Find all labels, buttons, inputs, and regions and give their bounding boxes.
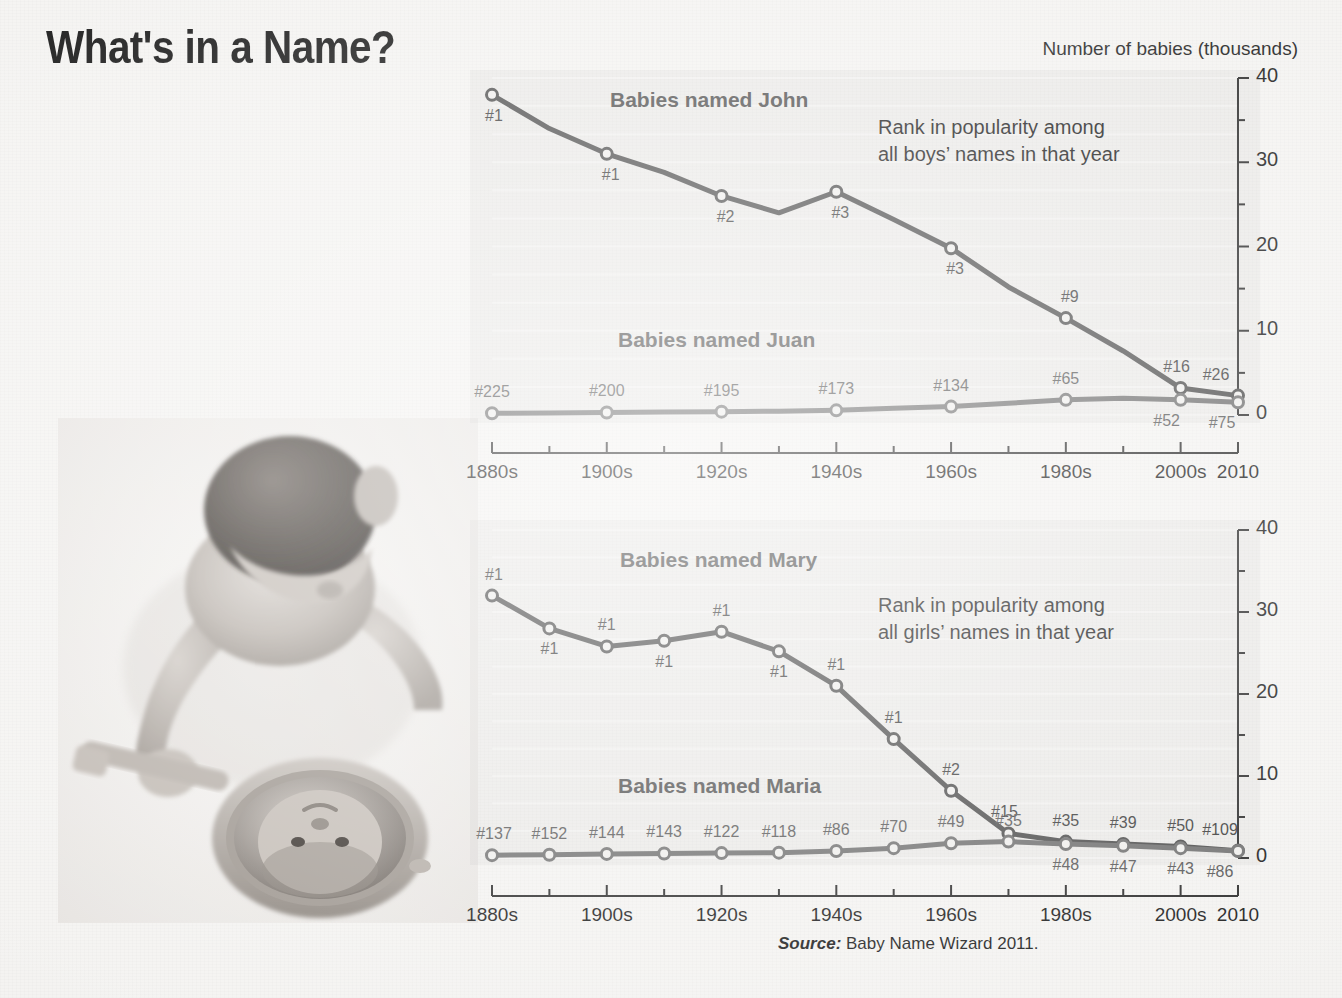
data-point-label: #2 bbox=[717, 208, 735, 226]
data-point-label: #1 bbox=[540, 640, 558, 658]
data-point-label: #9 bbox=[1061, 288, 1079, 306]
x-tick-label: 2010 bbox=[1217, 461, 1259, 483]
baby-mirror-photo bbox=[58, 418, 478, 923]
x-tick-label: 1940s bbox=[810, 461, 862, 483]
data-point-label: #26 bbox=[1203, 366, 1230, 384]
plot-svg-girls bbox=[470, 520, 1260, 905]
chart-boys: Babies named John Babies named Juan Rank… bbox=[470, 70, 1260, 485]
annotation-girls-line2: all girls’ names in that year bbox=[878, 619, 1114, 646]
source-line: Source: Baby Name Wizard 2011. bbox=[778, 934, 1038, 954]
annotation-boys-line1: Rank in popularity among bbox=[878, 114, 1105, 141]
x-tick-label: 2000s bbox=[1155, 904, 1207, 926]
x-tick-label: 1880s bbox=[466, 904, 518, 926]
data-point-label: #3 bbox=[831, 204, 849, 222]
data-point-label: #137 bbox=[476, 825, 512, 843]
data-point-label: #1 bbox=[602, 166, 620, 184]
y-tick-label: 20 bbox=[1256, 233, 1278, 256]
data-point-label: #1 bbox=[485, 107, 503, 125]
page-title: What's in a Name? bbox=[46, 20, 395, 74]
plot-svg-boys bbox=[470, 70, 1260, 485]
data-point-label: #35 bbox=[995, 812, 1022, 830]
units-caption: Number of babies (thousands) bbox=[1042, 38, 1298, 60]
annotation-boys-line2: all boys’ names in that year bbox=[878, 141, 1120, 168]
data-point-label: #75 bbox=[1209, 414, 1236, 432]
series-label-maria: Babies named Maria bbox=[618, 774, 821, 798]
data-point-label: #2 bbox=[942, 761, 960, 779]
data-point-label: #47 bbox=[1110, 858, 1137, 876]
y-tick-label: 10 bbox=[1256, 762, 1278, 785]
x-tick-label: 1900s bbox=[581, 904, 633, 926]
series-label-juan: Babies named Juan bbox=[618, 328, 815, 352]
data-point-label: #1 bbox=[885, 709, 903, 727]
series-label-mary: Babies named Mary bbox=[620, 548, 817, 572]
data-point-label: #86 bbox=[1207, 863, 1234, 881]
data-point-label: #35 bbox=[1052, 812, 1079, 830]
data-point-label: #16 bbox=[1163, 358, 1190, 376]
y-tick-label: 40 bbox=[1256, 64, 1278, 87]
data-point-label: #225 bbox=[474, 383, 510, 401]
annotation-girls-line1: Rank in popularity among bbox=[878, 592, 1105, 619]
x-tick-label: 1940s bbox=[810, 904, 862, 926]
data-point-label: #50 bbox=[1167, 817, 1194, 835]
data-point-label: #1 bbox=[655, 653, 673, 671]
y-tick-label: 20 bbox=[1256, 680, 1278, 703]
x-tick-label: 1980s bbox=[1040, 461, 1092, 483]
y-tick-label: 0 bbox=[1256, 401, 1267, 424]
data-point-label: #118 bbox=[762, 823, 796, 841]
data-point-label: #49 bbox=[938, 813, 965, 831]
data-point-label: #1 bbox=[598, 616, 616, 634]
data-point-label: #1 bbox=[485, 566, 503, 584]
data-point-label: #3 bbox=[946, 260, 964, 278]
x-tick-label: 1900s bbox=[581, 461, 633, 483]
data-point-label: #1 bbox=[713, 602, 731, 620]
x-tick-label: 1960s bbox=[925, 461, 977, 483]
y-tick-label: 10 bbox=[1256, 317, 1278, 340]
data-point-label: #1 bbox=[827, 656, 845, 674]
x-tick-label: 2000s bbox=[1155, 461, 1207, 483]
source-text: Baby Name Wizard 2011. bbox=[841, 934, 1038, 953]
x-tick-label: 2010 bbox=[1217, 904, 1259, 926]
x-tick-label: 1920s bbox=[696, 904, 748, 926]
data-point-label: #122 bbox=[704, 823, 740, 841]
baby-photo-illustration bbox=[58, 418, 478, 923]
data-point-label: #39 bbox=[1110, 814, 1137, 832]
series-label-john: Babies named John bbox=[610, 88, 808, 112]
data-point-label: #48 bbox=[1052, 856, 1079, 874]
chart-girls: Babies named Mary Babies named Maria Ran… bbox=[470, 520, 1260, 905]
x-tick-label: 1980s bbox=[1040, 904, 1092, 926]
data-point-label: #173 bbox=[819, 380, 855, 398]
data-point-label: #52 bbox=[1153, 412, 1180, 430]
x-tick-label: 1960s bbox=[925, 904, 977, 926]
y-tick-label: 40 bbox=[1256, 516, 1278, 539]
y-tick-label: 30 bbox=[1256, 148, 1278, 171]
source-lead: Source: bbox=[778, 934, 841, 953]
x-tick-label: 1880s bbox=[466, 461, 518, 483]
data-point-label: #200 bbox=[589, 382, 625, 400]
data-point-label: #144 bbox=[589, 824, 625, 842]
y-tick-label: 30 bbox=[1256, 598, 1278, 621]
data-point-label: #152 bbox=[532, 825, 568, 843]
data-point-label: #43 bbox=[1167, 860, 1194, 878]
data-point-label: #86 bbox=[823, 821, 850, 839]
data-point-label: #70 bbox=[880, 818, 907, 836]
y-tick-label: 0 bbox=[1256, 844, 1267, 867]
data-point-label: #109 bbox=[1202, 821, 1238, 839]
data-point-label: #65 bbox=[1052, 370, 1079, 388]
data-point-label: #134 bbox=[933, 377, 969, 395]
x-tick-label: 1920s bbox=[696, 461, 748, 483]
data-point-label: #143 bbox=[646, 823, 682, 841]
data-point-label: #1 bbox=[770, 663, 788, 681]
data-point-label: #195 bbox=[704, 382, 740, 400]
